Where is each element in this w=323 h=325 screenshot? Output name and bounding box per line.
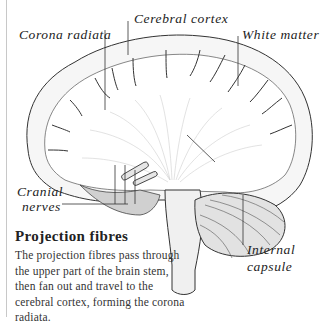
label-cranial-nerves-line1: Cranial: [17, 184, 63, 199]
label-corona-radiata: Corona radiata: [19, 27, 111, 42]
label-cranial-nerves-line2: nerves: [22, 199, 61, 214]
label-internal-capsule-line2: capsule: [247, 259, 292, 274]
caption-title: Projection fibres: [15, 228, 128, 245]
label-cerebral-cortex: Cerebral cortex: [134, 11, 228, 26]
caption-body: The projection fibres pass through the u…: [15, 248, 185, 325]
label-white-matter: White matter: [242, 27, 319, 42]
label-internal-capsule-line1: Internal: [247, 242, 295, 257]
